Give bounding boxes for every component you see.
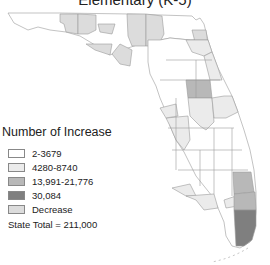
legend-item: 2-3679 <box>8 146 93 160</box>
florida-keys <box>212 248 248 262</box>
county-low <box>186 194 218 210</box>
legend-swatch <box>8 191 25 200</box>
legend-label: 2-3679 <box>32 148 62 159</box>
county-decrease <box>86 44 112 55</box>
legend-title: Number of Increase <box>2 125 112 139</box>
county-low <box>166 116 190 150</box>
legend: 2-3679 4280-8740 13,991-21,776 30,084 De… <box>8 146 93 216</box>
county-low <box>172 184 196 196</box>
state-total: State Total = 211,000 <box>8 219 97 230</box>
legend-label: 4280-8740 <box>32 162 77 173</box>
legend-swatch <box>8 163 25 172</box>
legend-swatch <box>8 177 25 186</box>
legend-label: Decrease <box>32 204 73 215</box>
legend-swatch <box>8 149 25 158</box>
legend-swatch <box>8 205 25 214</box>
county-mid-broward <box>234 192 256 210</box>
legend-item: 30,084 <box>8 188 93 202</box>
legend-label: 13,991-21,776 <box>32 176 93 187</box>
county-low <box>160 104 178 118</box>
county-decrease <box>127 14 146 46</box>
legend-item: 4280-8740 <box>8 160 93 174</box>
legend-item: Decrease <box>8 202 93 216</box>
county-high-dade <box>234 210 256 246</box>
county-high-mid <box>186 80 212 98</box>
legend-item: 13,991-21,776 <box>8 174 93 188</box>
legend-label: 30,084 <box>32 190 61 201</box>
county-decrease <box>78 14 96 34</box>
county-mid-palmbeach <box>233 172 254 194</box>
